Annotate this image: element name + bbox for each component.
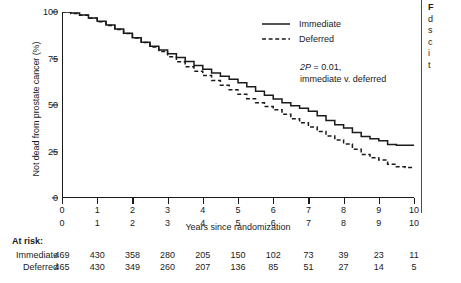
at-risk-value: 27 xyxy=(329,262,359,272)
at-risk-value: 5 xyxy=(399,262,429,272)
at-risk-value: 51 xyxy=(293,262,323,272)
caption-line: d xyxy=(428,14,461,26)
x-tick-mark xyxy=(203,198,204,204)
y-tick-mark xyxy=(52,58,58,59)
x-tick-mark xyxy=(62,198,63,204)
x-tick-label: 6 xyxy=(261,205,285,215)
at-risk-value: 150 xyxy=(223,250,253,260)
caption-lead: F xyxy=(428,2,461,14)
x-tick-label: 10 xyxy=(402,205,426,215)
caption-line: c xyxy=(428,37,461,49)
at-risk-row: Immediate46943035828020515010273392311 xyxy=(0,250,461,262)
x-tick-label: 1 xyxy=(85,205,109,215)
at-risk-column-header: 5 xyxy=(223,218,253,228)
at-risk-header-row: 012345678910 xyxy=(0,218,461,230)
legend-label: Deferred xyxy=(299,34,334,44)
caption-line: i xyxy=(428,48,461,60)
x-tick-mark xyxy=(132,198,133,204)
at-risk-row: Deferred465430349260207136855127145 xyxy=(0,262,461,274)
legend-swatch-solid xyxy=(262,19,290,28)
at-risk-column-header: 1 xyxy=(82,218,112,228)
at-risk-column-header: 6 xyxy=(258,218,288,228)
x-tick-label: 7 xyxy=(296,205,320,215)
at-risk-column-header: 7 xyxy=(293,218,323,228)
at-risk-value: 23 xyxy=(364,250,394,260)
at-risk-value: 430 xyxy=(82,250,112,260)
at-risk-value: 207 xyxy=(188,262,218,272)
x-tick-label: 9 xyxy=(367,205,391,215)
at-risk-value: 14 xyxy=(364,262,394,272)
x-tick-label: 8 xyxy=(332,205,356,215)
x-tick-label: 0 xyxy=(50,205,74,215)
caption-line: s xyxy=(428,25,461,37)
at-risk-value: 280 xyxy=(153,250,183,260)
chart-legend: ImmediateDeferred xyxy=(262,16,341,46)
pvalue-symbol: 2P xyxy=(300,62,311,72)
survival-curves xyxy=(62,12,414,198)
at-risk-value: 102 xyxy=(258,250,288,260)
at-risk-value: 260 xyxy=(153,262,183,272)
at-risk-title: At risk: xyxy=(12,236,43,246)
caption-line: t xyxy=(428,60,461,72)
at-risk-column-header: 4 xyxy=(188,218,218,228)
at-risk-value: 358 xyxy=(117,250,147,260)
at-risk-column-header: 8 xyxy=(329,218,359,228)
x-tick-mark xyxy=(344,198,345,204)
legend-item-immediate: Immediate xyxy=(262,16,341,31)
x-tick-mark xyxy=(97,198,98,204)
at-risk-value: 136 xyxy=(223,262,253,272)
x-tick-mark xyxy=(379,198,380,204)
at-risk-value: 465 xyxy=(47,262,77,272)
x-tick-label: 3 xyxy=(156,205,180,215)
y-tick-mark xyxy=(52,151,58,152)
at-risk-value: 73 xyxy=(293,250,323,260)
pvalue-value: = 0.01, xyxy=(311,62,341,72)
at-risk-column-header: 10 xyxy=(399,218,429,228)
at-risk-value: 430 xyxy=(82,262,112,272)
caption-divider xyxy=(421,0,422,213)
y-tick-mark xyxy=(52,11,58,12)
at-risk-value: 11 xyxy=(399,250,429,260)
plot-area xyxy=(62,12,414,198)
x-tick-label: 5 xyxy=(226,205,250,215)
at-risk-column-header: 9 xyxy=(364,218,394,228)
x-tick-mark xyxy=(308,198,309,204)
pvalue-line-1: 2P = 0.01, xyxy=(300,62,386,74)
legend-item-deferred: Deferred xyxy=(262,31,341,46)
x-tick-mark xyxy=(414,198,415,204)
at-risk-column-header: 2 xyxy=(117,218,147,228)
y-tick-mark xyxy=(52,104,58,105)
y-tick-mark xyxy=(52,197,58,198)
at-risk-value: 85 xyxy=(258,262,288,272)
legend-label: Immediate xyxy=(299,19,341,29)
x-tick-mark xyxy=(273,198,274,204)
at-risk-column-header: 0 xyxy=(47,218,77,228)
x-tick-mark xyxy=(238,198,239,204)
pvalue-annotation: 2P = 0.01, immediate v. deferred xyxy=(300,62,386,85)
at-risk-column-header: 3 xyxy=(153,218,183,228)
x-tick-label: 4 xyxy=(191,205,215,215)
pvalue-line-2: immediate v. deferred xyxy=(300,74,386,86)
x-tick-label: 2 xyxy=(120,205,144,215)
curve-deferred xyxy=(62,12,414,168)
legend-swatch-dashed xyxy=(262,34,290,43)
at-risk-value: 349 xyxy=(117,262,147,272)
at-risk-value: 205 xyxy=(188,250,218,260)
at-risk-value: 469 xyxy=(47,250,77,260)
at-risk-value: 39 xyxy=(329,250,359,260)
x-tick-mark xyxy=(168,198,169,204)
survival-curve-figure: Not dead from prostate cancer (%) 025507… xyxy=(0,0,461,283)
figure-caption: Fdscit xyxy=(428,2,461,71)
